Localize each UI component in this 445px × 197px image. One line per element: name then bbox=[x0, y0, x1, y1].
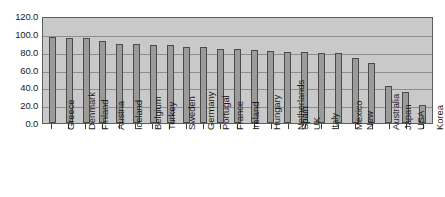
x-axis-label: Belgium bbox=[153, 96, 163, 130]
x-axis-label: USA bbox=[416, 111, 426, 130]
x-axis-label-slot: Japan bbox=[386, 129, 393, 197]
x-axis-label-slot: Netherlands bbox=[268, 129, 275, 197]
y-axis-tick-label: 120.0 bbox=[15, 12, 38, 22]
x-axis-label-slot: Korea bbox=[420, 129, 427, 197]
x-axis-label: Ireland bbox=[252, 102, 262, 130]
bar bbox=[318, 53, 325, 123]
x-axis-label-slot: Italy bbox=[318, 129, 325, 197]
y-axis-tick-label: 80.0 bbox=[20, 48, 38, 58]
x-axis-label: New bbox=[365, 111, 375, 130]
x-axis-label: Iceland bbox=[134, 100, 144, 130]
x-axis-label: Portugal bbox=[221, 95, 231, 130]
x-axis-label-slot: Portugal bbox=[200, 129, 207, 197]
y-axis-tick-label: 60.0 bbox=[20, 66, 38, 76]
x-axis-label-slot: Greece bbox=[48, 129, 55, 197]
x-axis-label-slot: Sweden bbox=[166, 129, 173, 197]
x-axis-label-slot: Germany bbox=[183, 129, 190, 197]
x-axis-label: Finland bbox=[101, 100, 111, 130]
x-axis-label: Mexico bbox=[354, 101, 364, 131]
x-axis-label-slot: Hungary bbox=[251, 129, 258, 197]
x-axis-label-slot: Australia bbox=[369, 129, 376, 197]
x-axis-label-slot: Iceland bbox=[116, 129, 123, 197]
bar bbox=[284, 52, 291, 123]
x-axis-label-slot: UK bbox=[302, 129, 309, 197]
x-axis-label-slot: New bbox=[352, 129, 359, 197]
x-axis-label: Sweden bbox=[187, 96, 197, 130]
x-axis-label-slot: USA bbox=[403, 129, 410, 197]
x-axis-label: Austria bbox=[117, 101, 127, 130]
x-axis-label-slot: Austria bbox=[99, 129, 106, 197]
y-axis-tick-label: 20.0 bbox=[20, 101, 38, 111]
x-axis-label-slot: Mexico bbox=[335, 129, 342, 197]
x-axis-label: Turkey bbox=[167, 102, 177, 130]
x-axis-label-slot: Turkey bbox=[149, 129, 156, 197]
x-axis-label-slot: Spain bbox=[285, 129, 292, 197]
x-axis-label: Greece bbox=[67, 99, 77, 130]
x-axis-label: Italy bbox=[330, 113, 340, 130]
x-axis-labels: GreeceDenmarkFinlandAustriaIcelandBelgiu… bbox=[42, 129, 433, 197]
y-axis: 120.0100.080.060.040.020.00.0 bbox=[0, 0, 38, 197]
x-axis-label: Germany bbox=[206, 92, 216, 130]
x-axis-label-slot: Finland bbox=[82, 129, 89, 197]
x-axis-label-slot: Ireland bbox=[234, 129, 241, 197]
x-axis-label: Japan bbox=[402, 105, 412, 130]
x-axis-label-slot: Belgium bbox=[132, 129, 139, 197]
x-axis-label: Denmark bbox=[87, 92, 97, 130]
x-axis-label: Spain bbox=[300, 106, 310, 130]
y-axis-tick-label: 100.0 bbox=[15, 30, 38, 40]
y-axis-tick-label: 40.0 bbox=[20, 84, 38, 94]
x-axis-label-slot: Denmark bbox=[65, 129, 72, 197]
x-axis-label: Hungary bbox=[272, 95, 282, 130]
bar-chart: 120.0100.080.060.040.020.00.0 GreeceDenm… bbox=[0, 0, 445, 197]
x-axis-label-slot: France bbox=[217, 129, 224, 197]
bar bbox=[49, 37, 56, 123]
x-axis-label: Korea bbox=[436, 105, 445, 130]
x-axis-label: France bbox=[235, 101, 245, 130]
y-axis-tick-label: 0.0 bbox=[25, 119, 38, 129]
x-axis-label: Australia bbox=[391, 94, 401, 130]
